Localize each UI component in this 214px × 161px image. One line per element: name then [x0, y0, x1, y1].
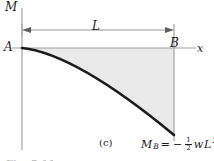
moment-diagram-figure: M L A B x (c) MB = − 1 2 wL2 Fig. 5.11 [0, 0, 214, 161]
fraction-numerator: 1 [185, 137, 191, 144]
axis-label-moment: M [5, 1, 17, 13]
equation-fraction-one-half: 1 2 [185, 137, 191, 153]
moment-value-equation: MB = − 1 2 wL2 [141, 137, 214, 153]
equation-load-symbol: w [194, 138, 203, 151]
equation-variable: M [141, 138, 152, 151]
subfigure-label: (c) [99, 138, 112, 148]
dimension-arrow-left-icon [22, 27, 31, 33]
moment-shaded-region [22, 48, 174, 135]
figure-caption-clipped: Fig. 5.11 [6, 152, 86, 161]
point-label-a: A [4, 41, 13, 53]
axis-label-x: x [197, 43, 203, 54]
equation-subscript: B [153, 142, 159, 151]
figure-caption-text: Fig. 5.11 [6, 158, 55, 161]
equation-equals-sign: = [161, 138, 170, 151]
fraction-denominator: 2 [185, 144, 191, 152]
equation-exponent: 2 [212, 136, 214, 145]
equation-length-symbol: L [204, 138, 211, 151]
point-label-b: B [170, 37, 179, 49]
dimension-label-length: L [92, 20, 100, 32]
dimension-arrow-right-icon [165, 27, 174, 33]
equation-minus-sign: − [173, 138, 182, 151]
